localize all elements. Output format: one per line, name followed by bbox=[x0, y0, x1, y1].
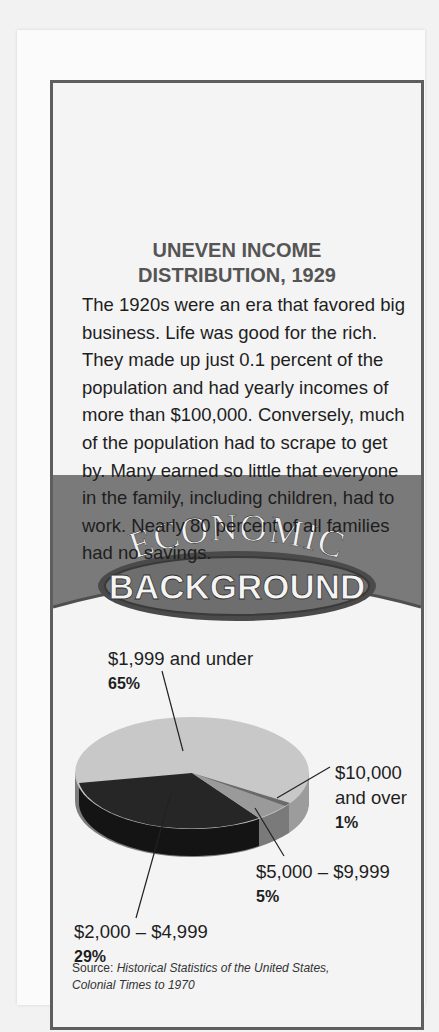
label-range-line2: and over bbox=[335, 785, 407, 810]
chart-title-line2: DISTRIBUTION, 1929 bbox=[53, 263, 421, 288]
chart-title: UNEVEN INCOME DISTRIBUTION, 1929 bbox=[53, 238, 421, 288]
source-title-line2: Colonial Times to 1970 bbox=[72, 978, 195, 992]
chart-title-line1: UNEVEN INCOME bbox=[53, 238, 421, 263]
label-range-line1: $10,000 bbox=[335, 760, 407, 785]
label-pct: 1% bbox=[335, 810, 407, 835]
source-title-line1: Historical Statistics of the United Stat… bbox=[117, 961, 330, 975]
infographic-card: ECONOMIC BACKGROUND UNEVEN INCOME DISTRI… bbox=[17, 30, 425, 1005]
label-range: $2,000 – $4,999 bbox=[74, 919, 208, 944]
body-paragraph: The 1920s were an era that favored big b… bbox=[82, 291, 412, 567]
label-range: $1,999 and under bbox=[108, 646, 253, 671]
label-pct: 5% bbox=[256, 884, 390, 909]
label-range: $5,000 – $9,999 bbox=[256, 859, 390, 884]
label-pct: 65% bbox=[108, 671, 253, 696]
label-under-1999: $1,999 and under 65% bbox=[108, 646, 253, 696]
label-10000-over: $10,000 and over 1% bbox=[335, 760, 407, 835]
source-prefix: Source: bbox=[72, 961, 117, 975]
title-bottom: BACKGROUND bbox=[109, 567, 366, 606]
label-5000-9999: $5,000 – $9,999 5% bbox=[256, 859, 390, 909]
source-note: Source: Historical Statistics of the Uni… bbox=[72, 960, 412, 994]
frame: ECONOMIC BACKGROUND UNEVEN INCOME DISTRI… bbox=[50, 80, 424, 1030]
